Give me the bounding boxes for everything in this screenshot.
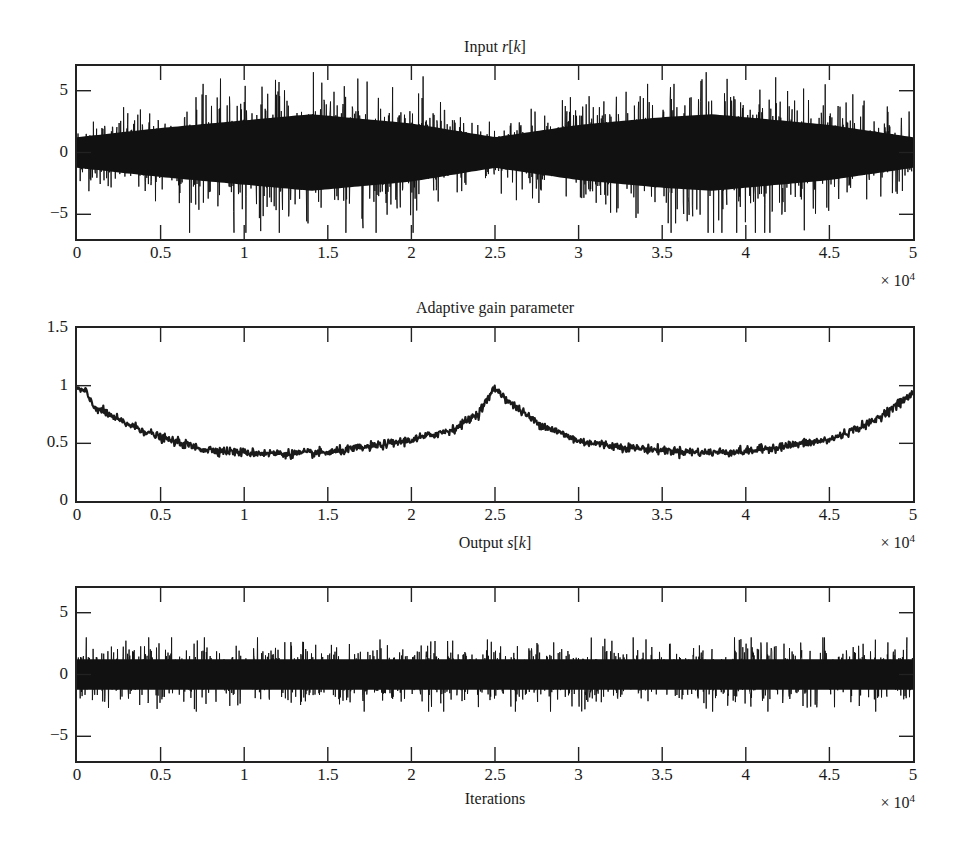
x-tick-label: 2.5	[484, 505, 505, 525]
x-tick-label: 0	[73, 243, 82, 263]
x-tick-label: 1	[240, 765, 249, 785]
y-tick-label: 0	[60, 142, 69, 162]
chart-title-output: Output s[k]	[75, 534, 915, 552]
x-tick-label: 2.5	[484, 243, 505, 263]
mult-exp: 4	[910, 792, 916, 804]
x-tick-label: 1.5	[317, 505, 338, 525]
mult-base: × 10	[880, 272, 909, 289]
x-tick-label: 4.5	[819, 243, 840, 263]
x-tick-label: 1	[240, 505, 249, 525]
plot-area-input	[75, 64, 915, 241]
x-tick-label: 0.5	[150, 243, 171, 263]
x-tick-label: 1	[240, 243, 249, 263]
title-text: Output	[459, 534, 507, 551]
x-axis-label-iterations: Iterations	[75, 790, 915, 808]
x-tick-label: 3.5	[652, 765, 673, 785]
signal-core	[77, 659, 913, 690]
title-bracket: ]	[521, 38, 526, 55]
chart-title-input: Input r[k]	[75, 38, 915, 56]
x-tick-label: 5	[909, 243, 918, 263]
plot-svg	[77, 588, 913, 761]
x-tick-label: 1.5	[317, 765, 338, 785]
cropped-caption-text	[0, 836, 957, 847]
x-tick-label: 2	[407, 765, 416, 785]
title-text: Input	[464, 38, 502, 55]
x-tick-label: 2.5	[484, 765, 505, 785]
y-tick-label: 0	[60, 664, 69, 684]
y-tick-label: 1.5	[47, 317, 68, 337]
plot-svg	[77, 66, 913, 239]
plot-svg	[77, 328, 913, 501]
y-tick-label: −5	[50, 725, 68, 745]
x-tick-label: 3	[574, 243, 583, 263]
x-tick-label: 5	[909, 765, 918, 785]
y-tick-label: 1	[60, 375, 69, 395]
x-tick-label: 4	[742, 243, 751, 263]
title-index: k	[519, 534, 526, 551]
x-tick-label: 5	[909, 505, 918, 525]
y-tick-label: 5	[60, 602, 69, 622]
plot-area-gain	[75, 326, 915, 503]
mult-base: × 10	[880, 794, 909, 811]
x-tick-label: 2	[407, 505, 416, 525]
x-multiplier-output: × 104	[880, 792, 915, 812]
y-tick-label: 0	[60, 490, 69, 510]
x-tick-label: 2	[407, 243, 416, 263]
x-tick-label: 4	[742, 765, 751, 785]
x-tick-label: 0	[73, 505, 82, 525]
y-tick-label: 0.5	[47, 432, 68, 452]
plot-area-output	[75, 586, 915, 763]
x-tick-label: 0.5	[150, 505, 171, 525]
x-tick-label: 3	[574, 505, 583, 525]
x-multiplier-input: × 104	[880, 270, 915, 290]
x-tick-label: 4.5	[819, 505, 840, 525]
y-tick-label: 5	[60, 80, 69, 100]
title-index: k	[513, 38, 520, 55]
title-bracket: ]	[526, 534, 531, 551]
x-tick-label: 3	[574, 765, 583, 785]
chart-title-gain: Adaptive gain parameter	[75, 299, 915, 317]
signal-core	[77, 114, 913, 190]
gain-line	[77, 386, 913, 459]
x-tick-label: 1.5	[317, 243, 338, 263]
x-tick-label: 0.5	[150, 765, 171, 785]
x-tick-label: 4	[742, 505, 751, 525]
x-tick-label: 3.5	[652, 505, 673, 525]
x-tick-label: 3.5	[652, 243, 673, 263]
x-tick-label: 0	[73, 765, 82, 785]
y-tick-label: −5	[50, 203, 68, 223]
x-tick-label: 4.5	[819, 765, 840, 785]
mult-exp: 4	[910, 270, 916, 282]
